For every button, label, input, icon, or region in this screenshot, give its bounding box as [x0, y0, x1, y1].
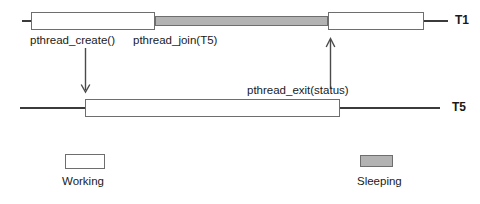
t5-axis-line-left: [20, 107, 90, 109]
t1-working-block-2: [328, 12, 424, 30]
legend-swatch-sleeping: [360, 155, 393, 167]
pthread-timeline-diagram: T1 pthread_create() pthread_join(T5) pth…: [0, 0, 480, 204]
t1-sleeping-block: [155, 16, 328, 26]
thread-label-t1: T1: [455, 14, 469, 27]
pthread-exit-label: pthread_exit(status): [247, 84, 349, 97]
exit-arrow-up-icon: [324, 36, 337, 88]
legend-label-working: Working: [62, 175, 104, 188]
pthread-join-label: pthread_join(T5): [133, 34, 217, 47]
create-arrow-down-icon: [79, 48, 92, 96]
pthread-create-label: pthread_create(): [30, 34, 115, 47]
legend-label-sleeping: Sleeping: [357, 175, 402, 188]
t5-working-block: [85, 99, 340, 117]
t1-working-block-1: [31, 12, 155, 30]
t5-axis-line-right: [335, 107, 440, 109]
legend-swatch-working: [65, 154, 105, 169]
thread-label-t5: T5: [452, 101, 466, 114]
